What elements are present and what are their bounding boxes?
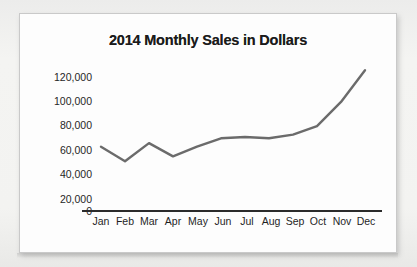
- chart-plot-area: 2014 Monthly Sales in Dollars 120,000 10…: [20, 14, 396, 252]
- x-axis-tick-label: Jul: [240, 215, 253, 227]
- x-axis-tick-label: Apr: [165, 215, 181, 227]
- x-axis-tick-label: May: [188, 215, 208, 227]
- x-axis-tick-label: Oct: [310, 215, 326, 227]
- x-axis-tick-label: Mar: [140, 215, 158, 227]
- x-axis-tick-label: Aug: [262, 215, 281, 227]
- x-axis: Jan Feb Mar Apr May Jun Jul Aug Sep Oct …: [20, 215, 396, 235]
- sales-line-series: [101, 70, 365, 161]
- x-axis-tick-label: Dec: [357, 215, 376, 227]
- screenshot-root: 2014 Monthly Sales in Dollars 120,000 10…: [0, 0, 417, 267]
- x-axis-tick-label: Feb: [116, 215, 134, 227]
- x-axis-tick-label: Jun: [215, 215, 232, 227]
- page-bottom-shadow: [17, 253, 398, 258]
- x-axis-tick-label: Jan: [93, 215, 110, 227]
- x-axis-tick-label: Sep: [286, 215, 305, 227]
- chart-figure-card: 2014 Monthly Sales in Dollars 120,000 10…: [19, 13, 397, 253]
- x-axis-tick-label: Nov: [333, 215, 352, 227]
